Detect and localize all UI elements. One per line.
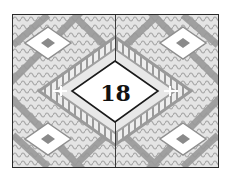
card-number: 18: [13, 15, 218, 167]
pattern-card: 18: [12, 14, 219, 168]
